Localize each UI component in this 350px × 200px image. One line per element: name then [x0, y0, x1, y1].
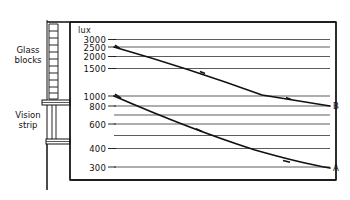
- ytick-label-600: 600: [74, 120, 106, 130]
- tick-stubs-group: [108, 40, 116, 168]
- series-endpoint-label-B: B: [333, 101, 339, 111]
- series-endpoint-label-A: A: [333, 163, 339, 173]
- series-line-A: [114, 94, 330, 168]
- ytick-label-300: 300: [74, 163, 106, 173]
- ytick-label-1000: 1000: [74, 92, 106, 102]
- sill-slab: [46, 139, 70, 144]
- ytick-label-400: 400: [74, 144, 106, 154]
- glass-blocks-label-line2: blocks: [6, 56, 50, 66]
- gridlines-group: [114, 40, 330, 168]
- vision-strip-label-line2: strip: [6, 121, 50, 131]
- glass-blocks-icon: [49, 24, 58, 99]
- figure-canvas: Glass blocks Vision strip lux 3000 2500 …: [0, 0, 350, 200]
- lintel-slab: [42, 100, 70, 105]
- ytick-label-2500: 2500: [74, 43, 106, 53]
- glass-blocks-label: Glass blocks: [6, 46, 50, 65]
- series-line-B: [114, 45, 330, 106]
- ytick-label-1500: 1500: [74, 64, 106, 74]
- ytick-label-2000: 2000: [74, 52, 106, 62]
- daylight-section-diagram: [0, 0, 350, 200]
- vision-strip-icon: [52, 105, 56, 140]
- ytick-label-800: 800: [74, 102, 106, 112]
- data-point-marker: [283, 160, 290, 162]
- vision-strip-label: Vision strip: [6, 111, 50, 130]
